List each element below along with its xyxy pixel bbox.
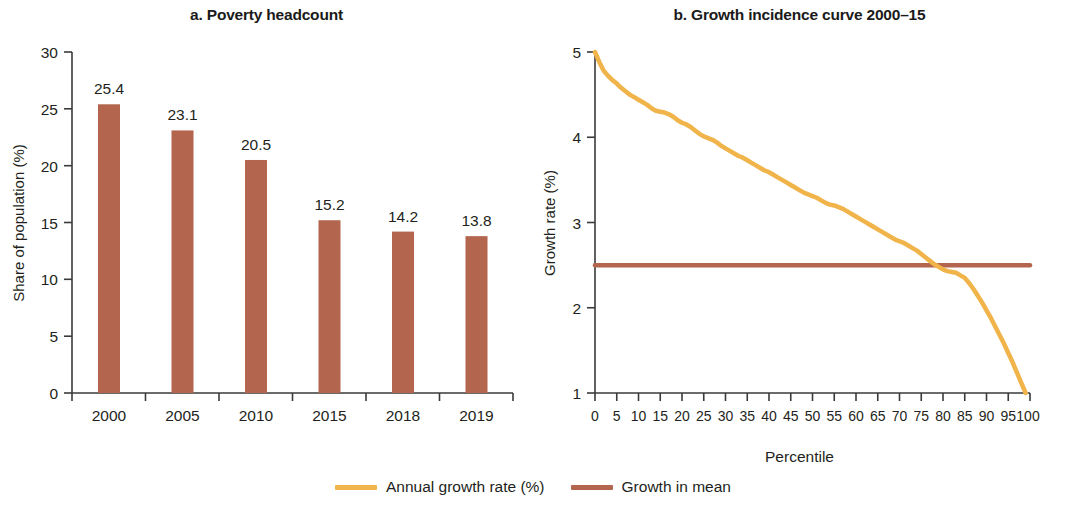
panel-b-plot: 5 4 3 2 1 Growth rate (%) [533, 0, 1066, 460]
x-tick-label-b-95: 95 [1000, 408, 1016, 424]
annual-growth-rate-curve [595, 52, 1026, 393]
x-tick-label-2010: 2010 [239, 407, 274, 424]
x-tick-label-b-65: 65 [870, 408, 886, 424]
x-tick-label-b-90: 90 [979, 408, 995, 424]
panel-a-plot: 30 25 20 15 10 5 0 Share of population (… [0, 0, 533, 460]
x-tick-label-b-45: 45 [783, 408, 799, 424]
x-tick-label-2000: 2000 [92, 407, 127, 424]
x-tick-label-b-80: 80 [935, 408, 951, 424]
y-tick-label-b-3: 3 [572, 215, 581, 232]
y-tick-label-a-25: 25 [41, 101, 58, 118]
bar-label-2000: 25.4 [94, 80, 125, 97]
y-tick-label-a-5: 5 [49, 328, 58, 345]
x-ticks-a [72, 393, 513, 401]
legend-swatch-line-icon-annual-growth-rate [335, 485, 377, 490]
x-tick-label-2018: 2018 [386, 407, 420, 424]
x-tick-label-b-5: 5 [613, 408, 621, 424]
y-tick-label-a-30: 30 [41, 44, 59, 61]
x-tick-label-2019: 2019 [459, 407, 493, 424]
x-tick-label-2015: 2015 [312, 407, 346, 424]
x-ticks-b [595, 393, 1030, 401]
bar-label-2015: 15.2 [314, 196, 344, 213]
bar-label-2019: 13.8 [461, 212, 491, 229]
y-axis-title-b: Growth rate (%) [541, 170, 558, 276]
x-axis-title-b: Percentile [533, 448, 1066, 466]
bar-2010 [245, 160, 267, 393]
x-tick-label-b-20: 20 [674, 408, 690, 424]
y-tick-label-a-15: 15 [41, 215, 58, 232]
x-tick-label-b-85: 85 [957, 408, 973, 424]
legend-item-growth-in-mean: Growth in mean [571, 478, 731, 496]
bar-2015 [319, 220, 341, 393]
legend-item-annual-growth-rate: Annual growth rate (%) [335, 478, 545, 496]
bar-label-2005: 23.1 [167, 106, 197, 123]
y-tick-label-b-1: 1 [572, 385, 581, 402]
bar-2005 [172, 130, 194, 393]
x-tick-label-b-35: 35 [739, 408, 755, 424]
bar-label-2018: 14.2 [388, 208, 418, 225]
y-tick-label-a-20: 20 [41, 158, 59, 175]
x-tick-label-b-55: 55 [826, 408, 842, 424]
bar-2019 [466, 236, 488, 393]
x-tick-label-b-30: 30 [718, 408, 734, 424]
y-tick-label-a-0: 0 [49, 385, 58, 402]
x-tick-label-b-100: 100 [1016, 408, 1040, 424]
figure-container: a. Poverty headcount 30 25 20 15 10 5 [0, 0, 1066, 510]
legend-swatch-line-icon-growth-in-mean [571, 485, 613, 490]
bar-2018 [392, 232, 414, 393]
bar-2000 [98, 104, 120, 393]
x-tick-label-b-75: 75 [913, 408, 929, 424]
x-tick-label-b-40: 40 [761, 408, 777, 424]
y-axis-title-a: Share of population (%) [10, 144, 27, 302]
x-tick-label-b-15: 15 [652, 408, 668, 424]
bar-series [98, 104, 488, 393]
x-tick-label-b-10: 10 [631, 408, 647, 424]
panel-b-growth-incidence-curve: b. Growth incidence curve 2000–15 5 4 3 … [533, 0, 1066, 460]
y-tick-label-a-10: 10 [41, 271, 59, 288]
x-tick-label-2005: 2005 [165, 407, 199, 424]
y-ticks-a [64, 52, 72, 393]
legend-label-growth-in-mean: Growth in mean [622, 478, 731, 496]
x-tick-label-b-60: 60 [848, 408, 864, 424]
bar-label-2010: 20.5 [241, 136, 271, 153]
legend-label-annual-growth-rate: Annual growth rate (%) [386, 478, 545, 496]
y-tick-label-b-5: 5 [572, 44, 581, 61]
panel-a-poverty-headcount: a. Poverty headcount 30 25 20 15 10 5 [0, 0, 533, 460]
y-ticks-b [587, 52, 595, 393]
chart-legend: Annual growth rate (%) Growth in mean [0, 478, 1066, 496]
y-tick-label-b-4: 4 [572, 129, 581, 146]
y-tick-label-b-2: 2 [572, 300, 581, 317]
x-tick-label-b-70: 70 [892, 408, 908, 424]
x-tick-label-b-25: 25 [696, 408, 712, 424]
x-tick-label-b-50: 50 [805, 408, 821, 424]
x-tick-label-b-0: 0 [591, 408, 599, 424]
